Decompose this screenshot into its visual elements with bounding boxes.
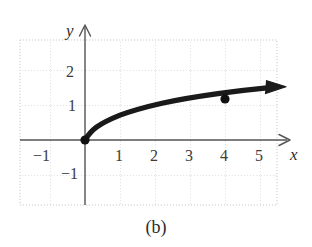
y-tick-label-2: 2	[66, 64, 74, 80]
point-origin	[80, 135, 89, 144]
figure-container: 2 1 −1 −1 1 2 3 4 5 y x (b)	[0, 0, 312, 247]
point-4-1	[220, 94, 229, 103]
plot-area	[0, 0, 312, 247]
x-tick-label-3: 3	[185, 148, 193, 164]
x-tick-label-5: 5	[255, 148, 263, 164]
x-axis-label: x	[290, 146, 298, 163]
grid-lines	[20, 40, 277, 205]
x-tick-label-4: 4	[220, 148, 228, 164]
x-tick-label-2: 2	[150, 148, 158, 164]
y-tick-label-neg1: −1	[61, 166, 78, 182]
x-tick-label-1: 1	[115, 148, 123, 164]
y-tick-label-1: 1	[68, 98, 76, 114]
y-axis-label: y	[66, 22, 74, 39]
x-tick-label-neg1: −1	[33, 148, 50, 164]
figure-caption: (b)	[0, 218, 312, 236]
